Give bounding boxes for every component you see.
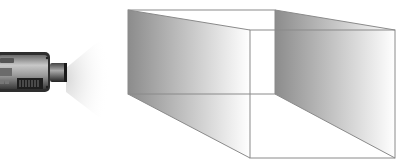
light-cone (66, 40, 110, 118)
viewing-frustum (128, 10, 395, 158)
video-camera-icon (0, 52, 67, 92)
frustum-diagram (0, 0, 417, 168)
